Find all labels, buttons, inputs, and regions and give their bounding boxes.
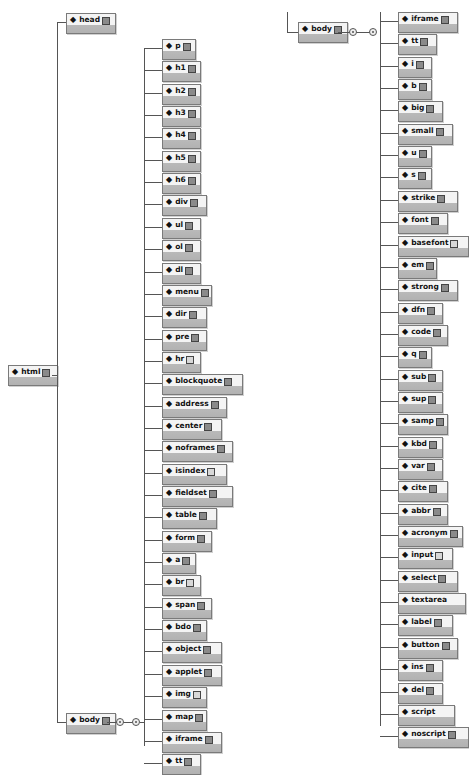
- expand-toggle-icon[interactable]: [448, 731, 456, 739]
- node-s-2[interactable]: ◆s: [398, 168, 432, 189]
- expand-toggle-icon[interactable]: [450, 530, 458, 538]
- expand-toggle-icon[interactable]: [217, 445, 225, 453]
- expand-toggle-icon[interactable]: [427, 307, 435, 315]
- node-form[interactable]: ◆form: [162, 531, 212, 552]
- node-h2[interactable]: ◆h2: [162, 84, 201, 105]
- node-center[interactable]: ◆center: [162, 419, 222, 440]
- sequence-compositor-icon[interactable]: [369, 28, 377, 36]
- node-select-2[interactable]: ◆select: [398, 571, 458, 592]
- expand-toggle-icon[interactable]: [191, 334, 199, 342]
- expand-toggle-icon[interactable]: [186, 579, 194, 587]
- node-iframe-2[interactable]: ◆iframe: [398, 12, 458, 33]
- node-span[interactable]: ◆span: [162, 598, 212, 619]
- node-bdo[interactable]: ◆bdo: [162, 620, 207, 641]
- node-button-2[interactable]: ◆button: [398, 638, 458, 659]
- node-fieldset[interactable]: ◆fieldset: [162, 486, 233, 507]
- expand-toggle-icon[interactable]: [42, 369, 50, 377]
- node-em-2[interactable]: ◆em: [398, 258, 437, 279]
- expand-toggle-icon[interactable]: [441, 284, 449, 292]
- expand-toggle-icon[interactable]: [426, 105, 434, 113]
- expand-toggle-icon[interactable]: [102, 717, 110, 725]
- expand-toggle-icon[interactable]: [190, 199, 198, 207]
- node-script-2[interactable]: ◆script: [398, 705, 455, 726]
- expand-toggle-icon[interactable]: [204, 423, 212, 431]
- expand-toggle-icon[interactable]: [207, 468, 215, 476]
- node-a[interactable]: ◆a: [162, 553, 196, 574]
- node-ins-2[interactable]: ◆ins: [398, 660, 443, 681]
- node-noframes[interactable]: ◆noframes: [162, 441, 233, 462]
- node-menu[interactable]: ◆menu: [162, 285, 212, 306]
- node-h4[interactable]: ◆h4: [162, 128, 201, 149]
- expand-toggle-icon[interactable]: [201, 289, 209, 297]
- node-tt[interactable]: ◆tt: [162, 754, 201, 775]
- expand-toggle-icon[interactable]: [197, 602, 205, 610]
- node-var-2[interactable]: ◆var: [398, 459, 443, 480]
- expand-toggle-icon[interactable]: [197, 535, 205, 543]
- expand-toggle-icon[interactable]: [211, 401, 219, 409]
- expand-toggle-icon[interactable]: [199, 512, 207, 520]
- node-body[interactable]: ◆body: [66, 713, 116, 734]
- node-abbr-2[interactable]: ◆abbr: [398, 504, 448, 525]
- node-pre[interactable]: ◆pre: [162, 330, 207, 351]
- node-img[interactable]: ◆img: [162, 687, 207, 708]
- node-hr[interactable]: ◆hr: [162, 352, 201, 373]
- expand-toggle-icon[interactable]: [224, 378, 232, 386]
- node-i-2[interactable]: ◆i: [398, 57, 432, 78]
- expand-toggle-icon[interactable]: [434, 619, 442, 627]
- expand-toggle-icon[interactable]: [195, 714, 203, 722]
- node-textarea-2[interactable]: ◆textarea: [398, 593, 466, 614]
- node-ul[interactable]: ◆ul: [162, 218, 201, 239]
- node-div[interactable]: ◆div: [162, 195, 207, 216]
- node-table[interactable]: ◆table: [162, 508, 217, 529]
- node-h6[interactable]: ◆h6: [162, 173, 201, 194]
- node-applet[interactable]: ◆applet: [162, 665, 222, 686]
- node-sup-2[interactable]: ◆sup: [398, 392, 443, 413]
- expand-toggle-icon[interactable]: [188, 132, 196, 140]
- sequence-compositor-icon[interactable]: [349, 28, 357, 36]
- expand-toggle-icon[interactable]: [428, 396, 436, 404]
- expand-toggle-icon[interactable]: [193, 691, 201, 699]
- sequence-compositor-icon[interactable]: [132, 718, 140, 726]
- node-noscript-2[interactable]: ◆noscript: [398, 727, 469, 748]
- node-kbd-2[interactable]: ◆kbd: [398, 437, 443, 458]
- expand-toggle-icon[interactable]: [419, 351, 427, 359]
- expand-toggle-icon[interactable]: [185, 267, 193, 275]
- expand-toggle-icon[interactable]: [426, 664, 434, 672]
- expand-toggle-icon[interactable]: [193, 624, 201, 632]
- expand-toggle-icon[interactable]: [183, 43, 191, 51]
- expand-toggle-icon[interactable]: [436, 418, 444, 426]
- expand-toggle-icon[interactable]: [185, 244, 193, 252]
- expand-toggle-icon[interactable]: [188, 65, 196, 73]
- node-isindex[interactable]: ◆isindex: [162, 464, 227, 485]
- node-q-2[interactable]: ◆q: [398, 347, 432, 368]
- node-h3[interactable]: ◆h3: [162, 106, 201, 127]
- expand-toggle-icon[interactable]: [427, 463, 435, 471]
- node-b-2[interactable]: ◆b: [398, 79, 432, 100]
- node-h5[interactable]: ◆h5: [162, 151, 201, 172]
- node-font-2[interactable]: ◆font: [398, 213, 448, 234]
- node-u-2[interactable]: ◆u: [398, 146, 432, 167]
- node-object[interactable]: ◆object: [162, 642, 222, 663]
- expand-toggle-icon[interactable]: [431, 217, 439, 225]
- expand-toggle-icon[interactable]: [419, 83, 427, 91]
- node-dir[interactable]: ◆dir: [162, 307, 207, 328]
- expand-toggle-icon[interactable]: [426, 262, 434, 270]
- expand-toggle-icon[interactable]: [437, 195, 445, 203]
- node-strike-2[interactable]: ◆strike: [398, 191, 458, 212]
- expand-toggle-icon[interactable]: [419, 150, 427, 158]
- expand-toggle-icon[interactable]: [203, 646, 211, 654]
- expand-toggle-icon[interactable]: [204, 669, 212, 677]
- expand-toggle-icon[interactable]: [186, 356, 194, 364]
- node-address[interactable]: ◆address: [162, 397, 227, 418]
- node-basefont-2[interactable]: ◆basefont: [398, 236, 469, 257]
- node-label-2[interactable]: ◆label: [398, 615, 453, 636]
- node-sub-2[interactable]: ◆sub: [398, 370, 443, 391]
- node-iframe[interactable]: ◆iframe: [162, 732, 222, 753]
- node-strong-2[interactable]: ◆strong: [398, 280, 458, 301]
- node-map[interactable]: ◆map: [162, 710, 207, 731]
- expand-toggle-icon[interactable]: [209, 490, 217, 498]
- node-dfn-2[interactable]: ◆dfn: [398, 303, 443, 324]
- expand-toggle-icon[interactable]: [429, 441, 437, 449]
- expand-toggle-icon[interactable]: [450, 240, 458, 248]
- expand-toggle-icon[interactable]: [205, 736, 213, 744]
